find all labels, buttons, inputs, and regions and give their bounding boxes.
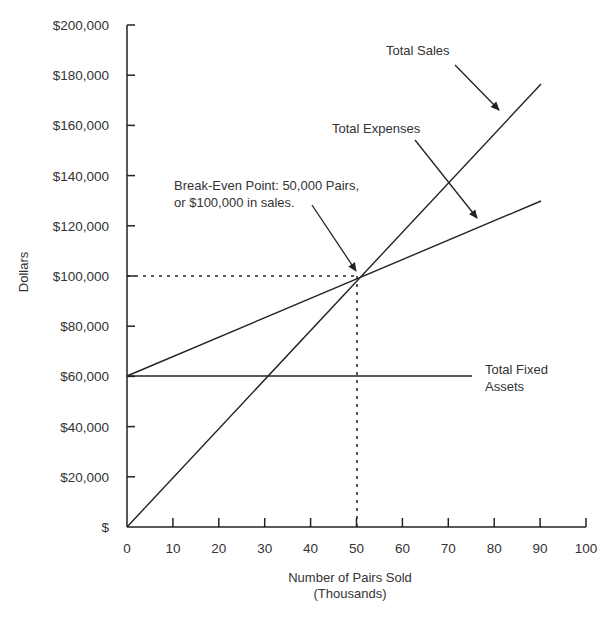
y-tick-label: $180,000 [53, 68, 109, 83]
break-even-chart: $$20,000$40,000$60,000$80,000$100,000$12… [0, 0, 615, 618]
x-tick-label: 50 [349, 541, 364, 556]
break-even-label-line2: or $100,000 in sales. [174, 195, 295, 210]
y-tick-label: $120,000 [53, 219, 109, 234]
y-tick-label: $200,000 [53, 18, 109, 33]
total-sales-line [127, 84, 541, 527]
x-tick-label: 10 [165, 541, 180, 556]
x-tick-label: 60 [395, 541, 410, 556]
x-axis-subtitle: (Thousands) [314, 586, 387, 601]
x-tick-label: 40 [303, 541, 318, 556]
y-tick-label: $ [101, 520, 109, 535]
x-tick-label: 100 [575, 541, 598, 556]
y-tick-label: $40,000 [60, 420, 109, 435]
x-tick-label: 70 [441, 541, 456, 556]
y-tick-label: $100,000 [53, 269, 109, 284]
total-expenses-arrow [415, 140, 477, 218]
x-tick-label: 0 [123, 541, 131, 556]
fixed-assets-label-line2: Assets [485, 379, 525, 394]
y-tick-label: $80,000 [60, 319, 109, 334]
total-expenses-line [127, 201, 541, 376]
break-even-label-line1: Break-Even Point: 50,000 Pairs, [174, 178, 359, 193]
x-tick-label: 30 [257, 541, 272, 556]
x-ticks: 0102030405060708090100 [123, 518, 597, 556]
x-tick-label: 80 [487, 541, 502, 556]
y-axis-title: Dollars [16, 251, 31, 292]
total-sales-arrow [455, 65, 499, 110]
x-axis-title: Number of Pairs Sold [288, 570, 412, 585]
fixed-assets-label-line1: Total Fixed [485, 362, 548, 377]
x-tick-label: 20 [211, 541, 226, 556]
y-tick-label: $20,000 [60, 470, 109, 485]
break-even-arrow [312, 205, 356, 271]
y-tick-label: $140,000 [53, 169, 109, 184]
x-tick-label: 90 [533, 541, 548, 556]
total-expenses-label: Total Expenses [332, 121, 421, 136]
total-sales-label: Total Sales [386, 43, 450, 58]
y-ticks: $$20,000$40,000$60,000$80,000$100,000$12… [53, 18, 135, 535]
y-tick-label: $160,000 [53, 118, 109, 133]
y-tick-label: $60,000 [60, 369, 109, 384]
